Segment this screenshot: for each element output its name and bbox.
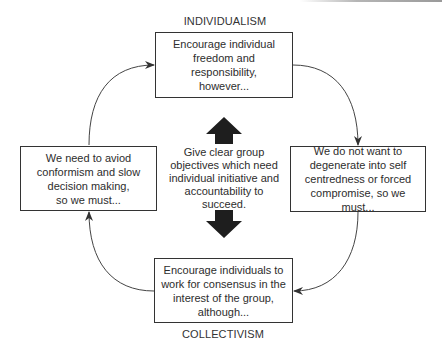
curved-arrow-right-to-bottom [294,212,358,291]
cycle-arrows [0,0,442,352]
curved-arrow-left-to-top [89,65,154,145]
thick-up-arrow-icon [206,117,242,144]
curved-arrow-top-to-right [293,65,358,145]
thick-down-arrow-icon [206,210,242,238]
curved-arrow-bottom-to-left [89,212,154,291]
